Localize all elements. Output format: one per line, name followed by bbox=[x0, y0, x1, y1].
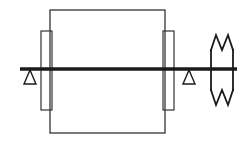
engineering-diagram: Shaft with rotor body on two simple supp… bbox=[0, 0, 248, 143]
diagram-canvas bbox=[0, 0, 248, 143]
